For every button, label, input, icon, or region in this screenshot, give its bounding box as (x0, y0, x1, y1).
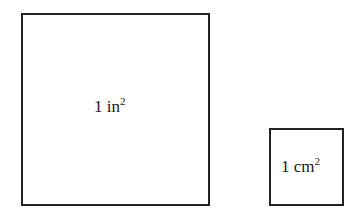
square-inch-label: 1 in2 (94, 98, 125, 115)
square-centimeter-label: 1 cm2 (281, 158, 320, 175)
square-inch-label-value: 1 in (94, 97, 120, 116)
square-inch-label-exponent: 2 (120, 95, 126, 107)
square-centimeter-label-value: 1 cm (281, 157, 315, 176)
square-centimeter-label-exponent: 2 (315, 155, 321, 167)
